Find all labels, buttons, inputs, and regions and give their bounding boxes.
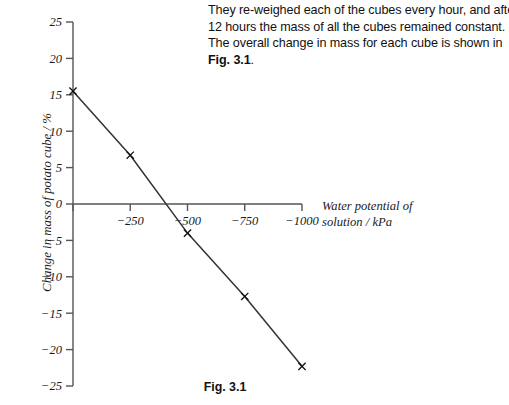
y-tick-label: 0 bbox=[56, 197, 63, 211]
x-tick-label: −1000 bbox=[285, 214, 319, 228]
y-tick-label: −25 bbox=[41, 379, 62, 393]
data-point-marker bbox=[127, 152, 134, 159]
figure-caption: Fig. 3.1 bbox=[152, 380, 298, 394]
x-tick-label: −750 bbox=[231, 214, 259, 228]
data-series-group bbox=[73, 91, 302, 366]
y-tick-label: 20 bbox=[50, 52, 63, 66]
line-chart-svg: 2520151050−5−10−15−20−25−250−500−750−100… bbox=[0, 0, 509, 405]
data-point-marker bbox=[184, 230, 191, 237]
x-axis-title-line-1: Water potential of bbox=[322, 199, 414, 213]
x-axis-title-group: Water potential ofsolution / kPa bbox=[322, 199, 414, 229]
x-tick-label: −250 bbox=[117, 214, 145, 228]
data-point-marker bbox=[241, 293, 248, 300]
data-line bbox=[73, 91, 302, 366]
y-tick-label: 5 bbox=[56, 161, 62, 175]
y-tick-label: −20 bbox=[41, 343, 63, 357]
x-axis-title-line-2: solution / kPa bbox=[322, 215, 392, 229]
y-tick-label: 25 bbox=[50, 15, 63, 29]
chart-container: 2520151050−5−10−15−20−25−250−500−750−100… bbox=[0, 0, 509, 405]
figure-page: They re-weighed each of the cubes every … bbox=[0, 0, 509, 405]
data-point-marker bbox=[298, 363, 305, 370]
y-axis-title: Change in mass of potato cube / % bbox=[40, 78, 55, 328]
